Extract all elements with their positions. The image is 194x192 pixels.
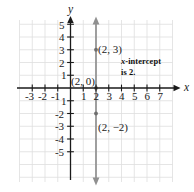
note-rest: -intercept <box>125 57 161 66</box>
x-tick-label-neg3: -3 <box>25 91 34 102</box>
x-tick-label-4: 4 <box>119 91 124 102</box>
x-intercept-note-line1: x-intercept <box>121 58 161 66</box>
graph-figure: y x -3 -2 -1 1 2 3 4 5 6 7 5 4 3 2 1 1 -… <box>0 0 194 192</box>
x-axis-label: x <box>184 82 189 94</box>
y-tick-label-5: 5 <box>59 20 64 31</box>
y-axis-label: y <box>68 4 73 16</box>
x-tick-label-5: 5 <box>132 91 137 102</box>
x-tick-label-neg1: -1 <box>51 91 60 102</box>
y-tick-label-neg4: -4 <box>55 134 64 145</box>
x-tick-label-6: 6 <box>145 91 150 102</box>
y-tick-label-neg3: -3 <box>55 121 64 132</box>
y-axis <box>67 16 74 180</box>
x-tick-label-2: 2 <box>94 91 99 102</box>
point-2-neg2 <box>94 112 98 116</box>
y-tick-label-neg5: -5 <box>55 147 64 158</box>
x-tick-label-neg2: -2 <box>38 91 47 102</box>
x-tick-label-1: 1 <box>81 91 86 102</box>
y-tick-label-1: 1 <box>61 70 66 81</box>
y-tick-label-3: 3 <box>59 45 64 56</box>
point-label-2-3: (2, 3) <box>98 44 122 55</box>
y-tick-label-neg1: 1 <box>61 96 66 107</box>
point-label-2-0: (2, 0) <box>71 76 95 87</box>
y-tick-label-4: 4 <box>59 32 64 43</box>
x-tick-label-3: 3 <box>107 91 112 102</box>
y-tick-label-neg2: -2 <box>55 109 64 120</box>
y-tick-label-2: 2 <box>59 58 64 69</box>
point-label-2-neg2: (2, −2) <box>98 122 128 133</box>
x-tick-label-7: 7 <box>158 91 163 102</box>
x-intercept-note-line2: is 2. <box>121 69 135 77</box>
